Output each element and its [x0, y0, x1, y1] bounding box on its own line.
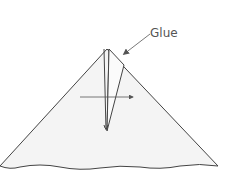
paper-fold-diagram: Glue [0, 0, 229, 180]
glue-label: Glue [150, 26, 178, 40]
glue-leader-arrow [124, 34, 150, 54]
